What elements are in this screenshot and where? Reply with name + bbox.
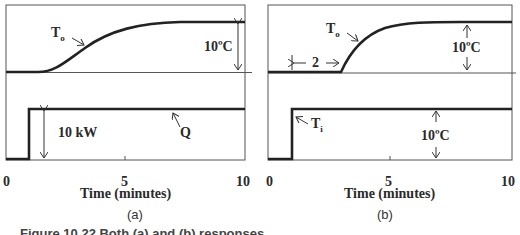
input-step-ti [268,109,512,159]
x-axis-label-a: Time (minutes) [80,186,171,202]
input-label-q: Q [180,125,191,141]
figure-caption: Figure 10.22 Both (a) and (b) responses.… [20,226,275,235]
tick-10-b: 10 [501,174,515,190]
panel-a [6,5,252,160]
output-delta-label-a: 10ºC [204,39,233,55]
tick-0-a: 0 [3,174,10,190]
sublabel-a: (a) [127,207,143,222]
input-delta-label-b: 10ºC [421,128,450,144]
chart-canvas [0,0,520,235]
dead-time-label: 2 [312,55,319,71]
x-axis-label-b: Time (minutes) [344,186,435,202]
tick-10-a: 10 [236,174,250,190]
input-step-q [6,109,245,159]
panel-b [268,5,516,160]
sublabel-b: (b) [377,207,393,222]
input-label-ti: Ti [311,116,323,134]
output-label-to-a: To [51,25,65,43]
tick-0-b: 0 [266,174,273,190]
output-label-to-b: To [326,21,340,39]
input-delta-label-a: 10 kW [58,125,97,141]
output-delta-label-b: 10ºC [452,40,481,56]
